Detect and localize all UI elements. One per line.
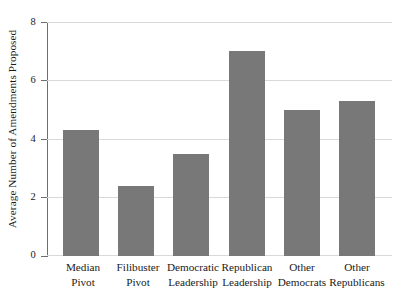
bar-filibuster-pivot [118,186,154,256]
y-tick-label-4: 4 [26,134,40,145]
x-label-other-republicans: Other Republicans [311,260,403,290]
bar-chart: Average Number of Amendments Proposed 8 … [0,0,407,302]
y-tick-label-8: 8 [26,17,40,28]
y-axis-title-text: Average Number of Amendments Proposed [6,30,18,229]
bar-median-pivot [63,130,99,256]
x-label-line2: Republicans [311,275,403,290]
gridline-6 [47,80,392,81]
y-tick-label-2: 2 [26,192,40,203]
bar-other-republicans [339,101,375,256]
bar-democratic-leadership [173,154,209,256]
bar-other-democrats [284,110,320,256]
plot-area [47,22,392,256]
gridline-8 [47,22,392,23]
bar-republican-leadership [229,51,265,256]
x-axis-labels: Median Pivot Filibuster Pivot Democratic… [47,260,392,302]
y-axis-title: Average Number of Amendments Proposed [0,0,24,258]
y-tick-label-0: 0 [26,250,40,261]
y-tick-label-6: 6 [26,75,40,86]
x-label-line1: Other [311,260,403,275]
